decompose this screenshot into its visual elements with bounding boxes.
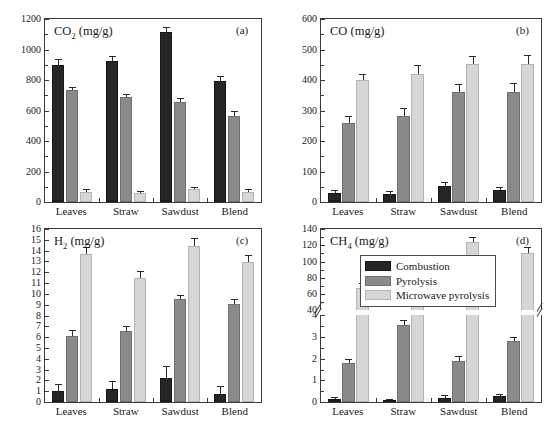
errorbar-b-straw-comb	[390, 192, 391, 194]
x-tickmark	[207, 398, 208, 402]
y-tickmark	[45, 380, 49, 381]
y-tickmark	[45, 111, 49, 112]
bar-c-straw-pyro	[120, 331, 133, 402]
y-tickmark-minor	[321, 270, 324, 271]
plot-area-a: 020040060080010001200	[44, 18, 262, 203]
errorcap-c-straw-pyro	[123, 326, 130, 327]
y-tickmark-minor	[45, 187, 48, 188]
y-tickmark-minor	[45, 156, 48, 157]
errorbar-a-sawdust-mw	[194, 188, 195, 190]
bar-d-straw-pyro	[397, 325, 410, 402]
y-ticklabel: 15	[31, 235, 41, 245]
y-ticklabel: 400	[302, 75, 317, 85]
errorbar-a-straw-mw	[140, 192, 141, 193]
category-label-straw: Straw	[99, 405, 154, 417]
errorcap-c-leaves-comb	[55, 384, 62, 385]
legend-label-microwave: Microwave pyrolysis	[396, 288, 489, 303]
y-ticklabel: 8	[36, 311, 41, 321]
panel-title-d: CH4 (mg/g)	[330, 234, 389, 251]
y-tickmark	[321, 111, 325, 112]
y-ticklabel: 40	[307, 305, 317, 315]
errorbar-a-blend-comb	[220, 77, 221, 81]
x-tickmark	[99, 198, 100, 202]
plot-area-c: 012345678910111213141516	[44, 228, 262, 403]
errorbar-b-sawdust-comb	[445, 183, 446, 185]
y-tickmark	[321, 229, 325, 230]
errorcap-d-blend-pyro	[510, 337, 517, 338]
bar-d-leaves-pyro	[342, 363, 355, 402]
x-tickmark	[207, 198, 208, 202]
y-tickmark	[45, 337, 49, 338]
bar-c-leaves-mw	[80, 254, 93, 402]
category-label-sawdust: Sawdust	[431, 205, 487, 217]
errorcap-c-blend-pyro	[231, 299, 238, 300]
y-tickmark	[45, 202, 49, 203]
panel-title-b: CO (mg/g)	[330, 24, 385, 39]
errorbar-c-blend-pyro	[234, 300, 235, 304]
y-ticklabel: 6	[36, 332, 41, 342]
x-tickmark	[486, 398, 487, 402]
errorbar-a-leaves-comb	[58, 60, 59, 64]
y-tickmark	[45, 326, 49, 327]
errorcap-a-leaves-mw	[83, 189, 90, 190]
bar-d-blend-pyro	[507, 341, 520, 402]
legend-label-pyrolysis: Pyrolysis	[396, 274, 437, 289]
errorcap-b-leaves-pyro	[345, 116, 352, 117]
errorbar-a-leaves-mw	[86, 190, 87, 192]
y-tickmark-minor	[321, 286, 324, 287]
errorbar-b-sawdust-mw	[473, 57, 474, 65]
x-tickmark	[99, 398, 100, 402]
bar-c-blend-mw	[242, 262, 255, 402]
legend-label-combustion: Combustion	[396, 259, 450, 274]
y-tickmark-minor	[321, 370, 324, 371]
category-label-leaves: Leaves	[44, 405, 99, 417]
y-tickmark	[321, 278, 325, 279]
y-tickmark	[45, 316, 49, 317]
errorcap-b-blend-mw	[524, 55, 531, 56]
category-label-straw: Straw	[99, 205, 154, 217]
errorcap-b-blend-comb	[496, 187, 503, 188]
x-tickmark	[153, 398, 154, 402]
panel-title-c: H2 (mg/g)	[54, 234, 104, 251]
errorcap-c-sawdust-pyro	[177, 295, 184, 296]
errorbar-c-blend-comb	[220, 387, 221, 393]
y-ticklabel: 7	[36, 321, 41, 331]
errorcap-b-blend-pyro	[510, 83, 517, 84]
category-label-straw: Straw	[376, 405, 432, 417]
bar-c-sawdust-pyro	[174, 299, 187, 402]
y-ticklabel: 200	[26, 167, 41, 177]
y-ticklabel: 600	[26, 106, 41, 116]
category-label-leaves: Leaves	[320, 205, 376, 217]
y-tickmark	[45, 348, 49, 349]
errorbar-c-leaves-pyro	[72, 331, 73, 335]
bar-d-blend-comb	[493, 396, 506, 402]
errorbar-c-straw-comb	[112, 382, 113, 389]
x-tickmark	[153, 198, 154, 202]
y-ticklabel: 1000	[21, 45, 41, 55]
legend-item-microwave: Microwave pyrolysis	[365, 288, 489, 303]
y-tickmark	[45, 251, 49, 252]
y-tickmark	[321, 172, 325, 173]
errorcap-b-straw-comb	[386, 191, 393, 192]
y-ticklabel: 80	[307, 273, 317, 283]
y-tickmark	[45, 370, 49, 371]
y-ticklabel: 0	[312, 197, 317, 207]
y-ticklabel: 400	[26, 136, 41, 146]
bar-a-straw-pyro	[120, 97, 133, 202]
errorcap-a-blend-pyro	[231, 111, 238, 112]
bar-b-leaves-mw	[356, 80, 369, 202]
bar-a-leaves-pyro	[66, 90, 79, 202]
errorbar-c-leaves-comb	[58, 385, 59, 391]
y-ticklabel: 600	[302, 14, 317, 24]
errorcap-a-leaves-comb	[55, 59, 62, 60]
category-label-blend: Blend	[208, 205, 263, 217]
errorcap-a-blend-comb	[217, 76, 224, 77]
errorbar-d-blend-comb	[500, 395, 501, 397]
errorcap-d-sawdust-comb	[441, 395, 448, 396]
y-tickmark	[321, 380, 325, 381]
x-tickmark	[486, 198, 487, 202]
y-ticklabel: 1	[36, 386, 41, 396]
errorcap-a-straw-comb	[109, 56, 116, 57]
errorcap-b-sawdust-comb	[441, 182, 448, 183]
y-ticklabel: 1200	[21, 14, 41, 24]
